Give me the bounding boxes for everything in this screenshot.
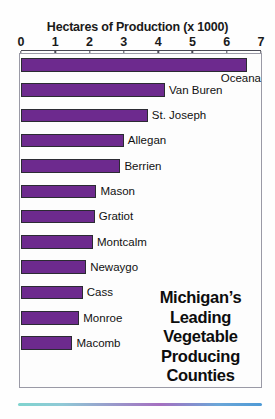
callout-line-1: Michigan’s (141, 288, 260, 308)
bar (21, 185, 96, 199)
bar (21, 286, 83, 300)
callout-line-3: Vegetable (141, 327, 260, 347)
x-axis-tick-label: 6 (223, 36, 230, 49)
x-axis-tick-labels: 01234567 (21, 36, 261, 49)
x-axis-tick-label: 4 (155, 36, 162, 49)
bar-row: Newaygo (21, 258, 261, 283)
bar-row: Berrien (21, 157, 261, 182)
callout-line-5: Counties (141, 366, 260, 386)
bar-row: St. Joseph (21, 107, 261, 132)
bar (21, 134, 124, 148)
bar-category-label: St. Joseph (152, 108, 206, 122)
callout-line-4: Producing (141, 347, 260, 367)
bar (21, 260, 86, 274)
bar-category-label: Gratiot (99, 209, 134, 223)
x-axis-tick-label: 7 (258, 36, 265, 49)
bar (21, 210, 95, 224)
x-axis-tick-label: 3 (120, 36, 127, 49)
x-axis-tick-label: 0 (18, 36, 25, 49)
bar-row: Allegan (21, 132, 261, 157)
bar (21, 159, 120, 173)
decorative-gradient-rule (18, 403, 262, 406)
bar (21, 109, 148, 123)
chart-title: Hectares of Production (x 1000) (0, 20, 275, 34)
bar (21, 336, 72, 350)
x-axis: 01234567 (21, 36, 261, 54)
bar-category-label: Berrien (124, 159, 161, 173)
bar (21, 235, 93, 249)
bar-category-label: Cass (87, 285, 113, 299)
bar-category-label: Van Buren (169, 83, 223, 97)
bar (21, 58, 247, 72)
bar-category-label: Macomb (76, 336, 120, 350)
bar-category-label: Allegan (128, 133, 166, 147)
x-axis-tick-label: 1 (52, 36, 59, 49)
bar-row: Gratiot (21, 208, 261, 233)
bar-row: Montcalm (21, 233, 261, 258)
bar (21, 311, 79, 325)
bar-category-label: Newaygo (90, 260, 138, 274)
bar-chart-figure: Hectares of Production (x 1000) 01234567… (0, 0, 275, 419)
bar-row: Oceana (21, 56, 261, 81)
callout-line-2: Leading (141, 308, 260, 328)
bar-row: Mason (21, 183, 261, 208)
bar-category-label: Monroe (83, 311, 122, 325)
x-axis-tick-label: 2 (86, 36, 93, 49)
bar-category-label: Mason (100, 184, 135, 198)
callout-title: Michigan’s Leading Vegetable Producing C… (141, 288, 260, 386)
x-axis-tick-label: 5 (189, 36, 196, 49)
bar (21, 83, 165, 97)
bar-row: Van Buren (21, 81, 261, 106)
bar-category-label: Montcalm (97, 235, 147, 249)
